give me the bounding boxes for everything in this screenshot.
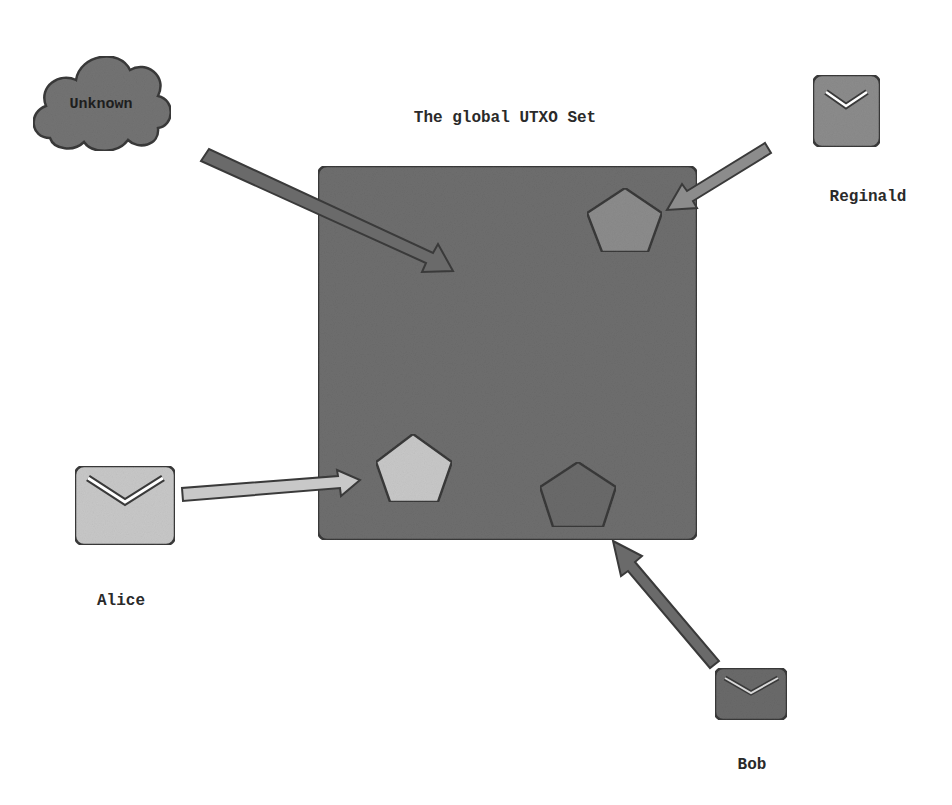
reginald-envelope-icon xyxy=(813,75,880,147)
alice-label: Alice xyxy=(97,592,145,610)
unknown-label: Unknown xyxy=(69,96,132,113)
utxo-set-title: The global UTXO Set xyxy=(414,109,596,127)
bob-envelope-icon xyxy=(715,668,787,720)
bob-label: Bob xyxy=(738,756,767,774)
alice-envelope-icon xyxy=(75,466,175,545)
reginald-label: Reginald xyxy=(830,188,907,206)
bob-arrow-icon xyxy=(613,541,719,668)
